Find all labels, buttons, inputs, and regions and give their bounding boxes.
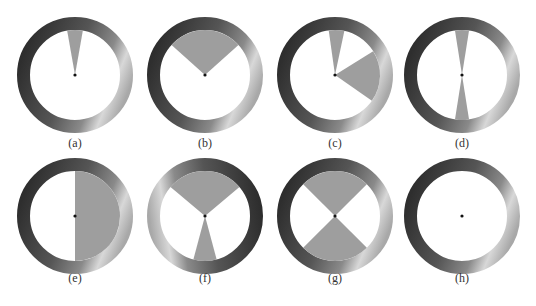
- panel-f: (f): [140, 141, 270, 291]
- center-dot: [203, 214, 206, 217]
- panel-a: (a): [10, 0, 140, 150]
- center-dot: [73, 214, 76, 217]
- center-dot: [460, 214, 463, 217]
- panel-label: (h): [397, 271, 527, 286]
- center-dot: [203, 73, 206, 76]
- panel-label: (e): [10, 271, 140, 286]
- panel-b: (b): [140, 0, 270, 150]
- sector-wedge: [172, 30, 239, 75]
- panel-g: (g): [270, 141, 400, 291]
- sector-wedge: [455, 75, 469, 120]
- panel-c: (c): [270, 0, 400, 150]
- center-dot: [333, 73, 336, 76]
- center-dot: [333, 214, 336, 217]
- panel-h: (h): [397, 141, 527, 291]
- panel-e: (e): [10, 141, 140, 291]
- sector-wedge: [329, 30, 345, 75]
- sector-wedge: [67, 30, 83, 75]
- sector-wedge: [455, 30, 469, 75]
- panel-label: (g): [270, 271, 400, 286]
- center-dot: [73, 73, 76, 76]
- sector-wedge: [335, 51, 380, 101]
- sector-wedge: [193, 216, 216, 261]
- panel-label: (f): [140, 271, 270, 286]
- sector-wedge: [303, 171, 367, 216]
- sector-wedge: [303, 216, 367, 261]
- panel-d: (d): [397, 0, 527, 150]
- center-dot: [460, 73, 463, 76]
